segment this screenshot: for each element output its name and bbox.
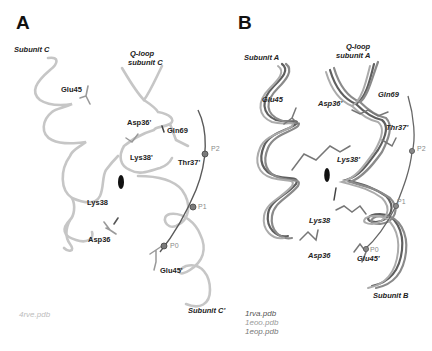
label-a-p2: P2 <box>211 145 220 152</box>
label-b-glu45p: Glu45' <box>357 255 380 263</box>
panel-a-sidechains-right <box>126 126 164 270</box>
panel-a-p0-marker <box>161 243 167 249</box>
label-subunit-b: Subunit B <box>373 292 408 300</box>
label-qloop: Q-loop <box>130 50 154 58</box>
pdb-label-4rve: 4rve.pdb <box>19 311 50 319</box>
panel-b-letter: B <box>238 13 252 32</box>
label-b-glu45: Glu45 <box>262 96 283 104</box>
panel-b-symmetry-axis-icon <box>324 168 330 182</box>
label-subunit-a: Subunit A <box>244 54 279 62</box>
label-b-p2: P2 <box>417 145 426 152</box>
label-subunit-c: Subunit C <box>14 46 49 54</box>
label-asp36p: Asp36' <box>127 119 151 127</box>
panel-a-p1-marker <box>190 204 196 210</box>
label-b-lys38p: Lys38' <box>337 156 360 164</box>
label-glu45p: Glu45' <box>160 267 183 275</box>
label-gln69: Gln69 <box>167 127 188 135</box>
label-asp36: Asp36 <box>88 236 111 244</box>
label-qloop-subunit-b: subunit A <box>336 52 370 60</box>
label-b-gln69: Gln69 <box>378 91 399 99</box>
panel-b-p0-marker <box>363 246 368 251</box>
label-b-asp36: Asp36 <box>308 252 331 260</box>
label-qloop-b: Q-loop <box>346 43 370 51</box>
panel-b-sidechains <box>284 108 396 262</box>
label-a-p1: P1 <box>198 203 207 210</box>
label-lys38p: Lys38' <box>130 154 153 162</box>
pdb-label-1eop: 1eop.pdb <box>245 328 278 336</box>
label-b-lys38: Lys38 <box>309 217 330 225</box>
label-b-p0: P0 <box>370 246 379 253</box>
panel-a-letter: A <box>16 13 30 32</box>
label-subunit-cp: Subunit C' <box>188 307 225 315</box>
panel-a-symmetry-axis-icon <box>118 175 124 189</box>
label-thr37p: Thr37' <box>178 159 200 167</box>
panel-a-sidechains <box>80 86 118 234</box>
label-glu45: Glu45 <box>61 86 82 94</box>
label-qloop-subunit: subunit C <box>128 59 163 67</box>
panel-b-p2-marker <box>409 148 414 153</box>
label-b-p1: P1 <box>397 198 406 205</box>
label-lys38: Lys38 <box>87 199 108 207</box>
panel-a-p2-marker <box>202 151 208 157</box>
label-a-p0: P0 <box>170 242 179 249</box>
label-b-thr37p: Thr37' <box>386 124 408 132</box>
label-b-asp36p: Asp36' <box>318 100 342 108</box>
